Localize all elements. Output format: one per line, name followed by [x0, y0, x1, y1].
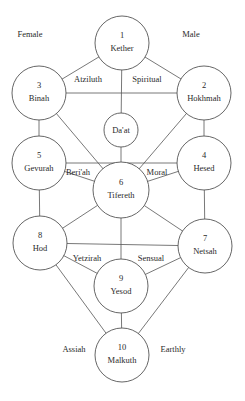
node-number: 7 — [203, 233, 207, 243]
sephirah-tifereth: 6Tifereth — [93, 162, 149, 218]
sephirah-yesod: 9Yesod — [94, 259, 148, 313]
label-sensual: Sensual — [138, 253, 165, 263]
sephirah-gevurah: 5Gevurah — [12, 136, 66, 190]
label-earthly: Earthly — [160, 344, 186, 354]
sephirah-binah: 3Binah — [12, 66, 66, 120]
sephirah-kether: 1Kether — [95, 16, 149, 70]
node-name: Tifereth — [107, 190, 135, 200]
tree-of-life-diagram: 1Kether2Hokhmah3BinahDa'at4Hesed5Gevurah… — [0, 0, 245, 401]
node-name: Binah — [29, 93, 50, 103]
node-name: Malkuth — [108, 355, 138, 365]
node-number: 8 — [38, 230, 42, 240]
sephirah-daat: Da'at — [104, 113, 138, 147]
sephirah-netsah: 7Netsah — [178, 219, 232, 273]
label-spiritual: Spiritual — [132, 74, 162, 84]
node-name: Gevurah — [24, 163, 54, 173]
node-name: Da'at — [112, 125, 130, 135]
node-number: 3 — [37, 80, 41, 90]
node-name: Hokhmah — [187, 93, 221, 103]
node-name: Yesod — [111, 286, 133, 296]
node-name: Hod — [33, 243, 48, 253]
sephirah-hod: 8Hod — [13, 216, 67, 270]
sephirah-hesed: 4Hesed — [177, 136, 231, 190]
label-atziluth: Atziluth — [74, 74, 103, 84]
node-number: 6 — [119, 177, 123, 187]
label-beriah: Beri'ah — [66, 167, 91, 177]
label-moral: Moral — [147, 167, 168, 177]
node-number: 2 — [202, 80, 206, 90]
node-number: 1 — [120, 30, 124, 40]
label-assiah: Assiah — [62, 344, 86, 354]
node-name: Hesed — [193, 163, 215, 173]
label-female: Female — [17, 29, 42, 39]
node-number: 10 — [118, 342, 127, 352]
node-number: 9 — [119, 273, 123, 283]
label-yetzirah: Yetzirah — [73, 253, 102, 263]
node-name: Netsah — [193, 246, 217, 256]
sephirah-malkuth: 10Malkuth — [95, 328, 149, 382]
label-male: Male — [182, 29, 200, 39]
node-number: 5 — [37, 150, 41, 160]
node-name: Kether — [110, 43, 133, 53]
sephirah-hokhmah: 2Hokhmah — [177, 66, 231, 120]
